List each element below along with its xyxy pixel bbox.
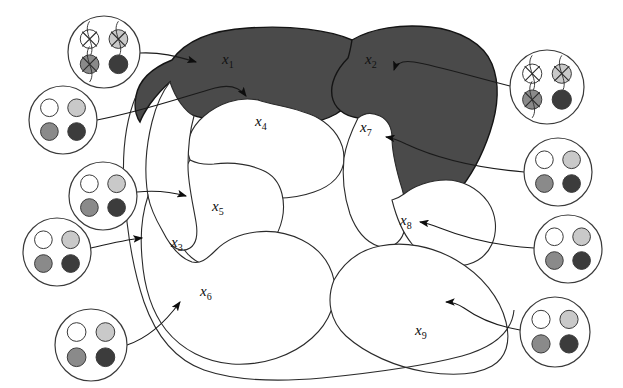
state-node-circle — [524, 138, 592, 206]
state-dot-bottom-right — [563, 175, 581, 193]
region-label-x8: x8 — [400, 212, 412, 231]
region-label-base: x — [415, 322, 422, 338]
region-label-x2: x2 — [365, 51, 377, 70]
region-label-x9: x9 — [415, 322, 427, 341]
region-label-base: x — [171, 234, 178, 250]
region-label-x7: x7 — [360, 119, 372, 138]
state-node[interactable] — [520, 297, 590, 367]
state-node[interactable] — [29, 86, 97, 154]
region-label-subscript: 3 — [178, 242, 183, 253]
state-dot-bottom-left — [536, 175, 554, 193]
state-dot-bottom-right — [108, 199, 126, 217]
state-node-circle — [23, 218, 91, 286]
region-label-subscript: 2 — [372, 59, 377, 70]
state-node-circle — [68, 16, 140, 88]
region-label-base: x — [365, 51, 372, 67]
state-node[interactable] — [534, 215, 602, 283]
state-dot-top-left — [81, 175, 99, 193]
state-dot-bottom-right — [109, 55, 128, 74]
state-dot-bottom-left — [67, 348, 86, 367]
region-label-subscript: 7 — [367, 127, 372, 138]
state-node-circle — [55, 309, 127, 381]
region-label-base: x — [255, 113, 262, 129]
region-label-base: x — [360, 119, 367, 135]
state-dot-top-left — [67, 323, 86, 342]
state-dot-top-right — [573, 228, 591, 246]
state-dot-top-left — [546, 228, 564, 246]
region-label-subscript: 5 — [219, 206, 224, 217]
region-label-base: x — [212, 198, 219, 214]
region-label-base: x — [200, 283, 207, 299]
region-label-subscript: 8 — [407, 220, 412, 231]
state-node-circle — [69, 162, 137, 230]
leader-node4-x3 — [91, 238, 142, 248]
state-dot-bottom-right — [96, 348, 115, 367]
state-dot-top-right — [560, 310, 578, 328]
region-label-base: x — [400, 212, 407, 228]
region-label-subscript: 1 — [229, 59, 234, 70]
state-dot-top-left — [532, 310, 550, 328]
diagram-stage: x1x2x3x4x5x6x7x8x9 Partitioned region di… — [0, 0, 623, 388]
region-label-x4: x4 — [255, 113, 267, 132]
state-node[interactable] — [23, 218, 91, 286]
region-label-base: x — [222, 51, 229, 67]
state-dot-top-right — [62, 231, 80, 249]
state-dot-bottom-right — [62, 255, 80, 273]
state-dot-bottom-right — [573, 252, 591, 270]
region-label-x6: x6 — [200, 283, 212, 302]
state-node[interactable] — [55, 309, 127, 381]
region-label-subscript: 4 — [262, 121, 267, 132]
state-dot-bottom-right — [560, 335, 578, 353]
region-label-subscript: 6 — [207, 291, 212, 302]
state-dot-bottom-left — [546, 252, 564, 270]
state-dot-top-right — [68, 99, 86, 117]
region-shape-x9 — [330, 244, 508, 374]
region-label-x3: x3 — [171, 234, 183, 253]
state-dot-bottom-left — [81, 199, 99, 217]
state-dot-top-right — [96, 323, 115, 342]
state-node[interactable] — [510, 50, 584, 124]
state-node-circle — [510, 50, 584, 124]
region-label-subscript: 9 — [422, 330, 427, 341]
state-node-circle — [29, 86, 97, 154]
state-node[interactable] — [68, 16, 140, 88]
diagram-canvas — [0, 0, 623, 388]
state-dot-bottom-left — [41, 123, 59, 141]
state-dot-top-left — [41, 99, 59, 117]
state-dot-top-left — [35, 231, 53, 249]
region-label-x1: x1 — [222, 51, 234, 70]
state-dot-bottom-right — [552, 90, 571, 109]
state-node[interactable] — [69, 162, 137, 230]
state-dot-top-right — [108, 175, 126, 193]
state-node-circle — [534, 215, 602, 283]
state-dot-bottom-left — [35, 255, 53, 273]
state-dot-top-left — [536, 151, 554, 169]
state-dot-bottom-left — [532, 335, 550, 353]
state-dot-top-right — [563, 151, 581, 169]
state-node-circle — [520, 297, 590, 367]
state-dot-bottom-right — [68, 123, 86, 141]
state-node[interactable] — [524, 138, 592, 206]
region-label-x5: x5 — [212, 198, 224, 217]
